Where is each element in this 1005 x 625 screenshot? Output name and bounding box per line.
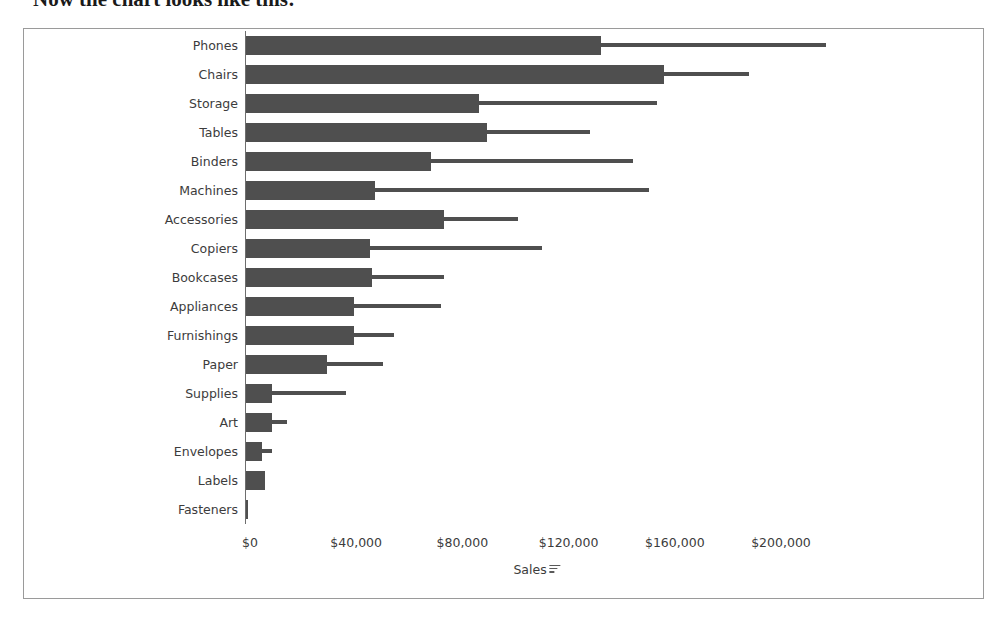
category-label: Chairs [25,60,245,89]
axis-tick-label: $0 [242,535,258,550]
category-label: Art [25,408,245,437]
category-label: Machines [25,176,245,205]
chart-row: Binders [24,147,983,176]
chart-row: Fasteners [24,495,983,524]
category-label: Labels [25,466,245,495]
category-label: Envelopes [25,437,245,466]
axis-tick-label: $80,000 [437,535,489,550]
chart-bar[interactable] [245,442,262,461]
chart-bar[interactable] [245,268,372,287]
category-label: Tables [25,118,245,147]
axis-tick-label: $120,000 [539,535,599,550]
chart-bar[interactable] [245,413,272,432]
chart-row: Storage [24,89,983,118]
chart-row: Chairs [24,60,983,89]
chart-bar[interactable] [245,152,431,171]
axis-tick-label: $160,000 [645,535,705,550]
chart-bar[interactable] [245,297,354,316]
chart-row: Envelopes [24,437,983,466]
chart-bar[interactable] [245,355,327,374]
category-label: Appliances [25,292,245,321]
category-label: Storage [25,89,245,118]
chart-row: Art [24,408,983,437]
chart-bar[interactable] [245,94,479,113]
category-label: Accessories [25,205,245,234]
category-label: Binders [25,147,245,176]
chart-bar[interactable] [245,181,375,200]
sort-descending-icon[interactable] [550,565,561,575]
chart-bar[interactable] [245,210,444,229]
chart-row: Copiers [24,234,983,263]
chart-bar[interactable] [245,384,272,403]
chart-row: Accessories [24,205,983,234]
chart-plot-area: PhonesChairsStorageTablesBindersMachines… [24,29,983,598]
chart-bar[interactable] [245,65,664,84]
chart-frame: PhonesChairsStorageTablesBindersMachines… [23,28,984,599]
category-label: Fasteners [25,495,245,524]
axis-tick-label: $40,000 [330,535,382,550]
axis-title-label: Sales [513,562,546,577]
category-label: Furnishings [25,321,245,350]
category-label: Supplies [25,379,245,408]
chart-bar[interactable] [245,123,487,142]
chart-row: Machines [24,176,983,205]
chart-row: Supplies [24,379,983,408]
category-label: Paper [25,350,245,379]
chart-bar[interactable] [245,326,354,345]
value-axis-line [245,31,246,524]
chart-row: Labels [24,466,983,495]
category-label: Bookcases [25,263,245,292]
axis-tick-label: $200,000 [751,535,811,550]
chart-bar[interactable] [245,239,370,258]
chart-row: Paper [24,350,983,379]
chart-bar[interactable] [245,36,601,55]
chart-bar[interactable] [245,471,265,490]
axis-title[interactable]: Sales [513,562,560,577]
chart-row: Phones [24,31,983,60]
chart-row: Bookcases [24,263,983,292]
category-label: Phones [25,31,245,60]
category-label: Copiers [25,234,245,263]
page-caption: Now the chart looks like this: [33,0,295,12]
chart-row: Appliances [24,292,983,321]
page-caption-strip: Now the chart looks like this: [0,0,1005,15]
chart-row: Furnishings [24,321,983,350]
chart-row: Tables [24,118,983,147]
